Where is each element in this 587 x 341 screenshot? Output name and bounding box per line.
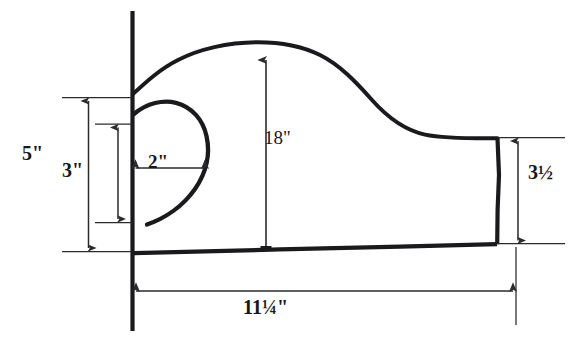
dimension-18in <box>261 60 272 251</box>
dimension-3half <box>497 138 565 244</box>
dimension-label-3half: 3½ <box>528 162 553 182</box>
technical-drawing: 5" 3" 2" 18" 3½ 11¼" <box>0 0 587 341</box>
dimension-18in-foot <box>261 246 272 251</box>
right-end-edge <box>497 138 499 244</box>
dimension-label-3in: 3" <box>62 160 83 180</box>
bottom-baseline <box>134 244 497 253</box>
dimension-label-5in: 5" <box>22 143 43 163</box>
dimension-3in <box>95 124 132 223</box>
dimension-label-2in: 2" <box>148 152 168 171</box>
dimension-label-18in: 18" <box>264 128 291 147</box>
inner-scroll-curve <box>134 102 208 225</box>
dimension-label-11quarter: 11¼" <box>243 297 288 317</box>
dimension-11quarter <box>136 247 516 325</box>
arm-outer-profile <box>133 42 498 138</box>
drawing-canvas <box>0 0 587 341</box>
